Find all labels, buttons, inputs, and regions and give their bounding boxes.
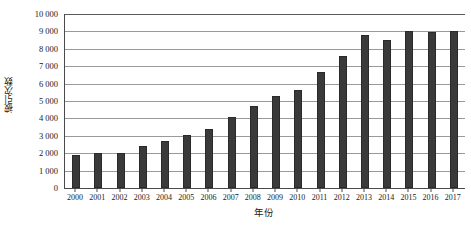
x-axis-tick-label: 2000 — [64, 192, 86, 206]
bar — [361, 35, 369, 188]
bar — [139, 146, 147, 188]
x-axis-title: 年份 — [64, 208, 464, 219]
x-axis-tick-label: 2014 — [375, 192, 397, 206]
bar-slot — [309, 14, 331, 188]
x-tick-mark — [208, 188, 209, 192]
x-axis-tick-label: 2006 — [197, 192, 219, 206]
x-axis-tick-label: 2002 — [108, 192, 130, 206]
bar-slot — [87, 14, 109, 188]
x-tick-mark — [186, 188, 187, 192]
x-axis-tick-label: 2013 — [353, 192, 375, 206]
x-axis-tick-label: 2001 — [86, 192, 108, 206]
x-tick-mark — [119, 188, 120, 192]
y-axis-tick-label: 3 000 — [39, 132, 58, 141]
x-tick-mark — [430, 188, 431, 192]
x-axis-tick-label: 2007 — [220, 192, 242, 206]
x-tick-mark — [275, 188, 276, 192]
bar — [383, 40, 391, 188]
bar — [250, 106, 258, 188]
x-axis-tick-labels: 2000200120022003200420052006200720082009… — [64, 192, 464, 206]
bar-slot — [376, 14, 398, 188]
bar — [294, 90, 302, 188]
bar-series — [65, 14, 465, 188]
x-tick-mark — [452, 188, 453, 192]
x-axis-tick-label: 2010 — [286, 192, 308, 206]
x-tick-mark — [408, 188, 409, 192]
x-tick-mark — [97, 188, 98, 192]
x-tick-mark — [163, 188, 164, 192]
bar-slot — [221, 14, 243, 188]
bar — [72, 155, 80, 188]
bar — [228, 117, 236, 188]
bar-chart: 被引次数 01 0002 0003 0004 0005 0006 0007 00… — [0, 0, 471, 233]
plot-area — [64, 14, 465, 189]
bar-slot — [198, 14, 220, 188]
bar — [117, 153, 125, 188]
x-tick-mark — [252, 188, 253, 192]
bar-slot — [421, 14, 443, 188]
bar — [205, 129, 213, 188]
y-axis-tick-label: 7 000 — [39, 62, 58, 71]
x-axis-tick-label: 2015 — [397, 192, 419, 206]
x-axis-tick-label: 2008 — [242, 192, 264, 206]
bar-slot — [109, 14, 131, 188]
x-axis-tick-label: 2009 — [264, 192, 286, 206]
y-axis-tick-labels: 01 0002 0003 0004 0005 0006 0007 0008 00… — [14, 0, 62, 192]
bar — [94, 153, 102, 188]
x-axis-tick-label: 2005 — [175, 192, 197, 206]
bar — [317, 72, 325, 188]
y-axis-tick-label: 5 000 — [39, 97, 58, 106]
x-axis-tick-label: 2016 — [420, 192, 442, 206]
y-axis-tick-label: 0 — [54, 184, 58, 193]
y-axis-tick-label: 10 000 — [35, 10, 58, 19]
y-axis-tick-label: 8 000 — [39, 45, 58, 54]
bar-slot — [398, 14, 420, 188]
x-axis-tick-label: 2017 — [442, 192, 464, 206]
bar — [161, 141, 169, 188]
bar-slot — [154, 14, 176, 188]
bar-slot — [265, 14, 287, 188]
x-axis-tick-label: 2012 — [331, 192, 353, 206]
x-tick-mark — [341, 188, 342, 192]
y-axis-tick-label: 1 000 — [39, 166, 58, 175]
x-axis-tick-label: 2003 — [131, 192, 153, 206]
bar — [183, 135, 191, 188]
x-tick-mark — [363, 188, 364, 192]
y-axis-tick-label: 4 000 — [39, 114, 58, 123]
bar-slot — [243, 14, 265, 188]
y-axis-tick-label: 6 000 — [39, 79, 58, 88]
bar-slot — [354, 14, 376, 188]
x-axis-tick-label: 2004 — [153, 192, 175, 206]
bar-slot — [332, 14, 354, 188]
y-axis-tick-label: 9 000 — [39, 27, 58, 36]
y-axis-tick-label: 2 000 — [39, 149, 58, 158]
x-tick-mark — [297, 188, 298, 192]
x-axis-tick-label: 2011 — [308, 192, 330, 206]
bar — [405, 31, 413, 188]
x-tick-mark — [386, 188, 387, 192]
bar-slot — [176, 14, 198, 188]
bar — [339, 56, 347, 188]
bar-slot — [65, 14, 87, 188]
bar — [450, 31, 458, 188]
bar — [272, 96, 280, 188]
x-tick-mark — [75, 188, 76, 192]
bar-slot — [443, 14, 465, 188]
x-tick-mark — [230, 188, 231, 192]
bar — [428, 32, 436, 188]
x-tick-mark — [141, 188, 142, 192]
x-tick-mark — [319, 188, 320, 192]
bar-slot — [132, 14, 154, 188]
bar-slot — [287, 14, 309, 188]
